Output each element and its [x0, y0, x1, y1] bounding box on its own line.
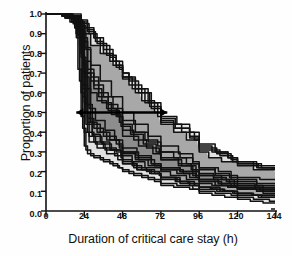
arrow-head-left [76, 108, 83, 116]
plot-area [0, 0, 292, 256]
survival-curve-figure: 1.0 0.9 0.8 0.7 0.6 0.5 0.4 0.3 0.2 0.1 … [0, 0, 292, 256]
arrow-head-right [160, 108, 167, 116]
